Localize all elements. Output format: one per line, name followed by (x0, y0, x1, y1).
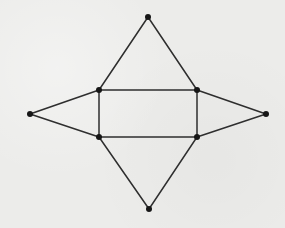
edge-left-apex-to-rect-top-left (30, 90, 99, 114)
edge-right-apex-to-rect-bottom-right (197, 114, 266, 137)
diagram-canvas (0, 0, 285, 228)
vertex-left-apex (27, 111, 33, 117)
edges-group (30, 17, 266, 209)
vertex-rect-bottom-right (194, 134, 200, 140)
pyramid-net-diagram (0, 0, 285, 228)
vertex-right-apex (263, 111, 269, 117)
edge-right-apex-to-rect-top-right (197, 90, 266, 114)
edge-left-apex-to-rect-bottom-left (30, 114, 99, 137)
edge-bottom-apex-to-rect-bottom-right (149, 137, 197, 209)
edge-top-apex-to-rect-top-left (99, 17, 148, 90)
vertex-bottom-apex (146, 206, 152, 212)
vertex-rect-top-left (96, 87, 102, 93)
edge-bottom-apex-to-rect-bottom-left (99, 137, 149, 209)
vertex-rect-bottom-left (96, 134, 102, 140)
edge-top-apex-to-rect-top-right (148, 17, 197, 90)
vertices-group (27, 14, 269, 212)
vertex-top-apex (145, 14, 151, 20)
vertex-rect-top-right (194, 87, 200, 93)
